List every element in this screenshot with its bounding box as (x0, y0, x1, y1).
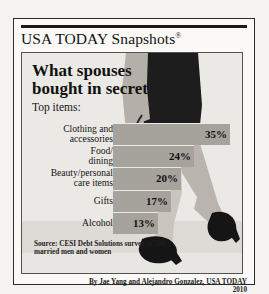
bar-label-line: care items (74, 178, 113, 188)
illustration-panel: What spouses bought in secret Top items:… (21, 52, 243, 274)
bar-row: Alcohol 13% (22, 212, 243, 234)
top-rule (21, 25, 247, 28)
bar-value: 20% (156, 167, 178, 189)
bar-value: 35% (205, 123, 227, 145)
brand-name: USA TODAY Snapshots (21, 30, 175, 47)
chart-headline: What spouses bought in secret (32, 62, 172, 98)
bar-label: Gifts (29, 190, 113, 212)
bar-label-line: Gifts (94, 196, 113, 206)
registered-mark: ® (175, 31, 181, 40)
outer-frame: USA TODAY Snapshots® (13, 18, 255, 285)
byline-credit: By Jae Yang and Alejandro Gonzalez, USA … (21, 278, 247, 286)
bar-value: 13% (133, 212, 155, 234)
snapshot-graphic: USA TODAY Snapshots® (0, 0, 269, 294)
headline-line-1: What spouses (32, 62, 172, 80)
byline: By Jae Yang and Alejandro Gonzalez, USA … (21, 278, 247, 294)
bar-value: 17% (146, 190, 168, 212)
bar-label-line: accessories (70, 134, 113, 144)
bar-label-line: Alcohol (82, 218, 113, 228)
bar-row: Beauty/personal care items 20% (22, 167, 243, 189)
bar-row: Food/ dining 24% (22, 145, 243, 167)
bar-chart: Clothing and accessories 35% Food/ dinin… (22, 123, 243, 234)
bar-label: Clothing and accessories (29, 123, 113, 145)
headline-line-2: bought in secret (32, 80, 172, 98)
bar-label: Food/ dining (29, 145, 113, 167)
brand-title: USA TODAY Snapshots® (21, 30, 247, 47)
bar-row: Gifts 17% (22, 190, 243, 212)
bar-label-line: dining (88, 156, 113, 166)
bar-label: Beauty/personal care items (29, 167, 113, 189)
byline-year: 2010 (21, 286, 247, 294)
top-items-label: Top items: (32, 101, 81, 113)
bar-value: 24% (169, 145, 191, 167)
bar-row: Clothing and accessories 35% (22, 123, 243, 145)
bar-label: Alcohol (29, 212, 113, 234)
source-note: Source: CESI Debt Solutions survey of 20… (34, 240, 184, 257)
